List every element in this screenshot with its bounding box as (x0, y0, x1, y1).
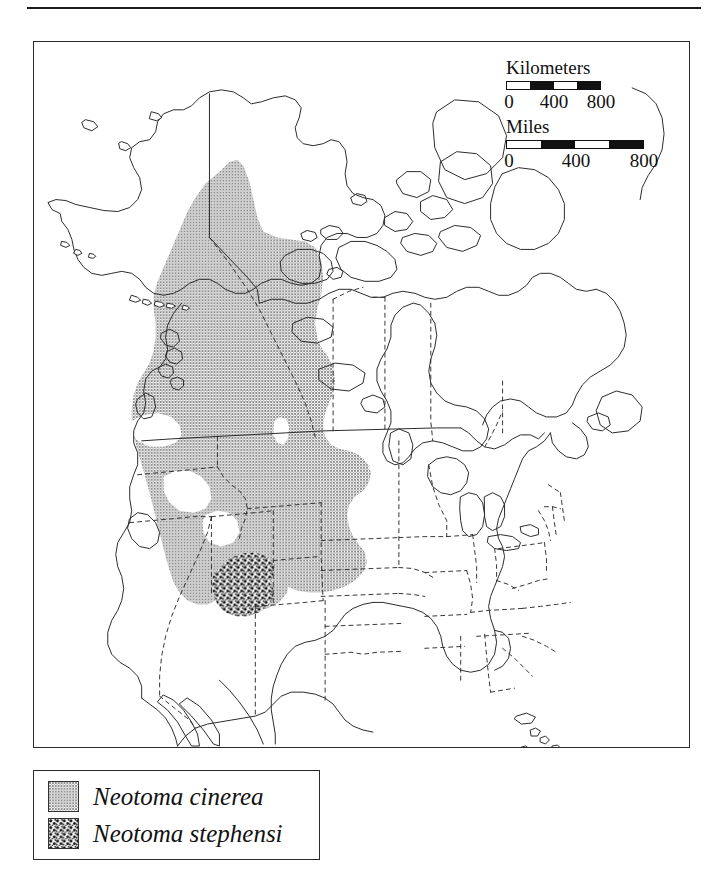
coastline-mexico-west (219, 680, 263, 744)
legend-swatch-stipple (48, 818, 79, 849)
scalebar-segment (541, 141, 575, 148)
lake-ontario (521, 525, 539, 537)
scalebar-segment (530, 82, 553, 89)
lake-athabasca (361, 395, 385, 413)
legend-swatch-gray (48, 781, 79, 812)
coastline-gulf-mexico (271, 602, 373, 744)
map-legend: Neotoma cinerea (33, 770, 320, 860)
coastline-california-south (142, 698, 178, 746)
scalebar-tick-label: 400 (540, 91, 569, 113)
island-baffin (491, 168, 565, 250)
coastline-nova-scotia (550, 423, 588, 459)
scalebar-miles-labels: 0 400 800 (506, 150, 644, 170)
island-vancouver (128, 513, 160, 549)
legend-label-neotoma-stephensi: Neotoma stephensi (93, 821, 283, 846)
scalebar-segment (609, 141, 643, 148)
lake-erie (488, 535, 521, 551)
scalebar-kilometers-labels: 0 400 800 (506, 91, 601, 111)
scalebar-segment (577, 82, 600, 89)
scalebar-kilometers-bar (506, 81, 601, 90)
scalebar-kilometers: Kilometers 0 400 800 (506, 58, 601, 111)
scalebar-tick-label: 400 (562, 150, 591, 172)
lake-michigan (460, 493, 485, 537)
scalebar-tick-label: 0 (504, 150, 514, 172)
range-neotoma-cinerea (131, 160, 371, 611)
scalebar-tick-label: 800 (587, 91, 616, 113)
island-newfoundland (596, 391, 642, 433)
map-frame: Kilometers 0 400 800 Miles 0 (33, 41, 690, 748)
top-divider-rule (27, 7, 701, 9)
island-victoria (336, 241, 397, 281)
island-ellesmere (433, 100, 507, 180)
coastline-florida (495, 630, 511, 670)
figure-page: Kilometers 0 400 800 Miles 0 (0, 0, 725, 896)
scalebar-segment (507, 82, 530, 89)
legend-label-neotoma-cinerea: Neotoma cinerea (93, 784, 264, 809)
scalebar-segment (575, 141, 609, 148)
scalebar-segment (507, 141, 541, 148)
legend-item-neotoma-cinerea: Neotoma cinerea (48, 781, 264, 812)
scalebar-miles: Miles 0 400 800 (506, 117, 644, 170)
scalebar-kilometers-title: Kilometers (506, 58, 601, 77)
scalebar-segment (554, 82, 577, 89)
scalebar-miles-title: Miles (506, 117, 644, 136)
legend-item-neotoma-stephensi: Neotoma stephensi (48, 818, 283, 849)
scalebar-tick-label: 800 (630, 150, 659, 172)
scalebar-miles-bar (506, 140, 644, 149)
coastline-labrador (483, 289, 627, 425)
lake-winnipeg (389, 429, 413, 465)
coastline-gulf-of-california (180, 698, 220, 746)
peninsula-baja (158, 695, 200, 746)
scalebar-tick-label: 0 (504, 91, 514, 113)
